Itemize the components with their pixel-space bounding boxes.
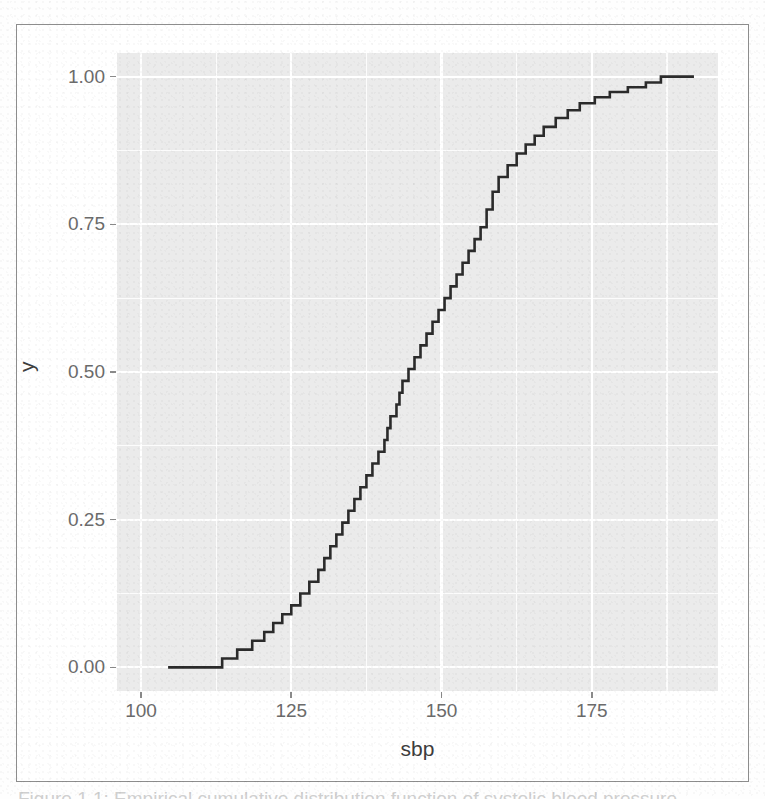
x-tick-mark (591, 692, 593, 698)
y-tick-label: 0.00 (68, 656, 105, 678)
figure-frame: 100125150175 0.000.250.500.751.00 sbp y (16, 24, 749, 782)
y-tick-label: 1.00 (68, 66, 105, 88)
x-tick-label: 125 (275, 700, 307, 722)
scanned-page: 100125150175 0.000.250.500.751.00 sbp y … (0, 0, 765, 799)
ecdf-step-line (168, 77, 694, 668)
y-tick-label: 0.75 (68, 213, 105, 235)
x-tick-label: 175 (576, 700, 608, 722)
y-tick-mark (110, 667, 116, 669)
y-tick-mark (110, 371, 116, 373)
x-tick-mark (441, 692, 443, 698)
x-tick-mark (290, 692, 292, 698)
data-layer (117, 53, 718, 691)
y-tick-label: 0.25 (68, 509, 105, 531)
x-tick-label: 150 (426, 700, 458, 722)
x-tick-label: 100 (125, 700, 157, 722)
x-tick-mark (140, 692, 142, 698)
x-axis-title: sbp (117, 737, 718, 761)
plot-panel (117, 53, 718, 691)
ecdf-plot: 100125150175 0.000.250.500.751.00 sbp y (17, 25, 750, 783)
y-tick-mark (110, 224, 116, 226)
y-tick-mark (110, 519, 116, 521)
y-tick-label: 0.50 (68, 361, 105, 383)
y-axis-title: y (15, 362, 39, 373)
figure-caption: Figure 1.1: Empirical cumulative distrib… (18, 788, 748, 799)
y-tick-mark (110, 76, 116, 78)
